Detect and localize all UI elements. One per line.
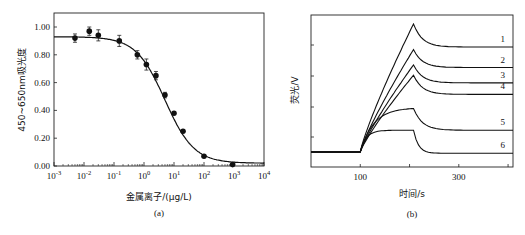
- curve-1: [311, 24, 513, 152]
- chart-a: 0.000.200.400.600.801.0010-310-210-11001…: [16, 13, 271, 218]
- x-tick-label: 104: [258, 169, 271, 181]
- x-axis-label-a: 金属离子/(μg/L): [126, 191, 192, 202]
- x-tick-label: 102: [198, 169, 210, 181]
- chart-b: 100300123456时间/s(b)荧光/V: [289, 15, 513, 219]
- data-point: [171, 110, 177, 116]
- y-axis-label-a: 450~650nm吸光度: [16, 48, 27, 131]
- y-tick-label: 0.00: [34, 161, 50, 171]
- figure: 0.000.200.400.600.801.0010-310-210-11001…: [0, 0, 525, 235]
- data-point: [116, 38, 122, 44]
- panel-label-a: (a): [154, 208, 164, 218]
- fit-curve: [54, 37, 264, 163]
- y-tick-label: 1.00: [34, 22, 50, 32]
- curve-2: [311, 50, 513, 152]
- x-tick-label: 300: [452, 172, 466, 182]
- data-point: [230, 162, 236, 168]
- y-tick-label: 0.40: [34, 105, 50, 115]
- plot-frame-a: [54, 13, 264, 166]
- x-tick-label: 100: [354, 172, 368, 182]
- y-tick-label: 0.80: [34, 50, 50, 60]
- data-point: [153, 73, 159, 79]
- data-point: [135, 52, 141, 58]
- curve-label-2: 2: [501, 55, 506, 65]
- curve-label-4: 4: [501, 81, 506, 91]
- curve-label-1: 1: [501, 34, 506, 44]
- data-point: [144, 62, 150, 68]
- y-tick-label: 0.60: [34, 78, 50, 88]
- y-axis-label-b: 荧光/V: [289, 76, 300, 104]
- x-tick-label: 10-2: [77, 169, 91, 181]
- x-tick-label: 103: [228, 169, 240, 181]
- data-point: [201, 153, 207, 159]
- x-axis-label-b: 时间/s: [399, 188, 425, 199]
- plot-frame-b: [311, 15, 513, 167]
- data-point: [86, 28, 92, 34]
- y-tick-label: 0.20: [34, 133, 50, 143]
- data-point: [96, 33, 102, 39]
- curve-label-6: 6: [501, 140, 506, 150]
- x-tick-label: 101: [168, 169, 180, 181]
- x-tick-label: 10-1: [107, 169, 121, 181]
- panel-label-b: (b): [407, 209, 418, 219]
- x-tick-label: 100: [138, 169, 150, 181]
- data-point: [72, 35, 78, 41]
- x-tick-label: 10-3: [47, 169, 61, 181]
- data-point: [180, 128, 186, 134]
- curve-label-5: 5: [501, 117, 506, 127]
- curve-4: [311, 75, 513, 152]
- curve-label-3: 3: [501, 70, 506, 80]
- data-point: [162, 92, 168, 98]
- curve-6: [311, 130, 513, 153]
